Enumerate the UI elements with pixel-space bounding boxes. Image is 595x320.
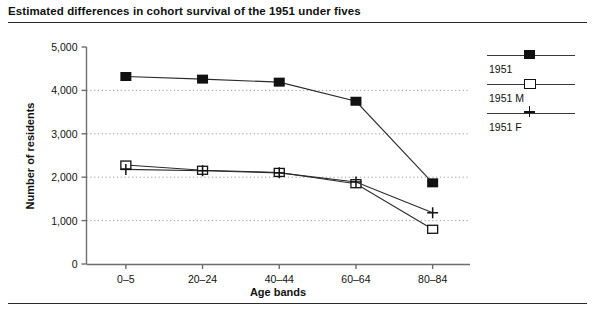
plus-marker	[427, 207, 438, 218]
filled-square-marker	[197, 75, 208, 84]
legend-item[interactable]: 1951 M	[487, 78, 587, 107]
filled-square-marker	[350, 97, 361, 106]
x-tick-label: 80–84	[418, 273, 447, 285]
y-tick-label: 3,000	[51, 128, 77, 140]
legend-item[interactable]: 1951 F	[487, 107, 587, 136]
filled-square-icon	[524, 50, 535, 59]
filled-square-marker	[427, 178, 438, 187]
figure: Estimated differences in cohort survival…	[0, 0, 595, 320]
y-tick-marks	[82, 47, 87, 264]
filled-square-marker	[120, 72, 131, 81]
filled-square-marker	[274, 78, 285, 87]
series-layer	[120, 72, 438, 233]
bottom-divider	[8, 303, 587, 304]
y-tick-labels: 01,0002,0003,0004,0005,000	[51, 41, 77, 270]
gridlines	[87, 90, 471, 220]
legend: 1951 1951 M 1951 F	[487, 49, 587, 136]
legend-sample-1951-m	[487, 78, 587, 91]
x-tick-label: 40–44	[265, 273, 294, 285]
legend-label: 1951 M	[487, 92, 587, 105]
y-tick-label: 1,000	[51, 215, 77, 227]
y-axis-title: Number of residents	[24, 103, 36, 210]
open-square-icon	[524, 79, 536, 89]
x-tick-label: 20–24	[188, 273, 217, 285]
legend-sample-1951	[487, 49, 587, 62]
x-tick-label: 0–5	[117, 273, 135, 285]
legend-item[interactable]: 1951	[487, 49, 587, 78]
legend-label: 1951 F	[487, 121, 587, 134]
open-square-marker	[428, 225, 438, 233]
legend-sample-1951-f	[487, 107, 587, 120]
x-tick-labels: 0–520–2440–4460–6480–84	[117, 273, 447, 285]
y-tick-label: 2,000	[51, 171, 77, 183]
chart-svg: 01,0002,0003,0004,0005,000 0–520–2440–44…	[0, 0, 595, 320]
plus-icon	[524, 108, 535, 119]
y-tick-label: 5,000	[51, 41, 77, 53]
y-tick-label: 4,000	[51, 84, 77, 96]
legend-label: 1951	[487, 63, 587, 76]
plot-area: 01,0002,0003,0004,0005,000 0–520–2440–44…	[0, 0, 595, 320]
series-1951-f	[120, 164, 438, 218]
x-tick-label: 60–64	[341, 273, 370, 285]
y-tick-label: 0	[72, 258, 78, 270]
x-axis-title: Age bands	[250, 286, 306, 298]
